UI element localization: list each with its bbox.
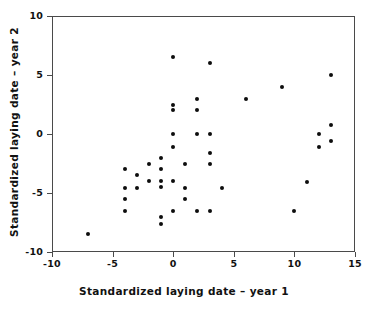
y-axis-title-wrapper: Standardized laying date – year 2 bbox=[0, 0, 26, 268]
x-axis-tick bbox=[52, 252, 53, 257]
data-point bbox=[123, 197, 127, 201]
y-axis-title: Standardized laying date – year 2 bbox=[8, 14, 20, 250]
data-point bbox=[147, 179, 151, 183]
x-axis-tick-label: 5 bbox=[217, 258, 251, 269]
data-point bbox=[208, 162, 212, 166]
x-axis-tick bbox=[173, 252, 174, 257]
data-point bbox=[86, 232, 90, 236]
x-axis-tick bbox=[113, 252, 114, 257]
data-point bbox=[123, 209, 127, 213]
data-point bbox=[292, 209, 296, 213]
data-point bbox=[159, 222, 163, 226]
data-point bbox=[171, 209, 175, 213]
data-point bbox=[159, 215, 163, 219]
data-point bbox=[159, 179, 163, 183]
data-point bbox=[171, 103, 175, 107]
data-point bbox=[183, 186, 187, 190]
scatter-plot-figure: -10-5051015-10-50510 Standardized laying… bbox=[0, 0, 368, 310]
x-axis-title: Standardized laying date – year 1 bbox=[0, 285, 368, 297]
x-axis-tick bbox=[234, 252, 235, 257]
x-axis-tick-label: -5 bbox=[96, 258, 130, 269]
data-point bbox=[183, 197, 187, 201]
data-point bbox=[280, 85, 284, 89]
data-point bbox=[123, 186, 127, 190]
x-axis-tick-label: -10 bbox=[35, 258, 69, 269]
data-point bbox=[195, 209, 199, 213]
data-point bbox=[159, 156, 163, 160]
data-point bbox=[195, 97, 199, 101]
data-point bbox=[220, 186, 224, 190]
data-point bbox=[208, 151, 212, 155]
data-point bbox=[208, 132, 212, 136]
x-axis-tick bbox=[355, 252, 356, 257]
x-axis-tick-label: 15 bbox=[338, 258, 368, 269]
data-point bbox=[135, 173, 139, 177]
data-point bbox=[171, 132, 175, 136]
x-axis-tick-label: 10 bbox=[277, 258, 311, 269]
data-point bbox=[123, 167, 127, 171]
data-point bbox=[183, 162, 187, 166]
data-point bbox=[208, 209, 212, 213]
y-axis-tick bbox=[47, 75, 52, 76]
data-point bbox=[171, 145, 175, 149]
data-point bbox=[329, 123, 333, 127]
data-point bbox=[317, 132, 321, 136]
y-axis-tick bbox=[47, 16, 52, 17]
data-point bbox=[171, 55, 175, 59]
data-point bbox=[208, 61, 212, 65]
y-axis-tick bbox=[47, 134, 52, 135]
data-point bbox=[171, 179, 175, 183]
data-point bbox=[159, 167, 163, 171]
data-point bbox=[329, 73, 333, 77]
data-point bbox=[195, 108, 199, 112]
data-point bbox=[147, 162, 151, 166]
x-axis-tick-label: 0 bbox=[156, 258, 190, 269]
x-axis-tick bbox=[294, 252, 295, 257]
data-point bbox=[159, 185, 163, 189]
data-point bbox=[317, 145, 321, 149]
data-point bbox=[135, 186, 139, 190]
y-axis-tick bbox=[47, 252, 52, 253]
data-points-layer bbox=[52, 16, 355, 252]
data-point bbox=[171, 108, 175, 112]
y-axis-tick bbox=[47, 193, 52, 194]
data-point bbox=[329, 139, 333, 143]
data-point bbox=[305, 180, 309, 184]
data-point bbox=[195, 132, 199, 136]
data-point bbox=[244, 97, 248, 101]
